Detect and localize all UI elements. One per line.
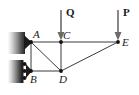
support-a-pin (8, 32, 32, 54)
roller-dot (23, 76, 27, 80)
truss-joints (29, 40, 120, 73)
load-arrow-p (115, 10, 122, 41)
support-b-wall (8, 60, 22, 83)
node-label-e: E (121, 36, 129, 48)
node-label-a: A (32, 28, 40, 40)
support-b-roller (8, 60, 32, 83)
node-label-b: B (30, 73, 37, 85)
load-p-arrowhead (115, 32, 122, 41)
load-label-p: P (123, 6, 130, 18)
roller-dot (23, 62, 27, 66)
node-label-d: D (58, 73, 67, 85)
truss-diagram-canvas: A B C D E Q P (0, 0, 139, 95)
joint-e (116, 40, 120, 44)
truss-members (31, 42, 118, 71)
support-a-wall (8, 32, 25, 54)
member-a-d (31, 42, 61, 71)
roller-dot (23, 69, 27, 73)
node-label-c: C (63, 29, 71, 41)
joint-a (29, 40, 33, 44)
load-label-q: Q (66, 6, 75, 18)
truss-diagram: A B C D E Q P (0, 0, 139, 95)
member-d-e (61, 42, 118, 71)
